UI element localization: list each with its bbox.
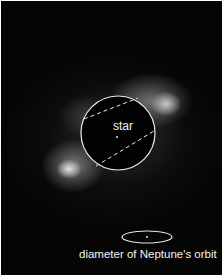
star-position-dot: [116, 136, 118, 138]
orbit-scale-label: diameter of Neptune's orbit: [79, 248, 217, 260]
star-label: star: [113, 119, 133, 133]
astronomy-image: star diameter of Neptune's orbit: [1, 1, 222, 275]
orbit-center-dot: [146, 236, 148, 238]
coronagraph-mask-circle: [81, 96, 155, 170]
annotation-overlay: [1, 1, 222, 275]
